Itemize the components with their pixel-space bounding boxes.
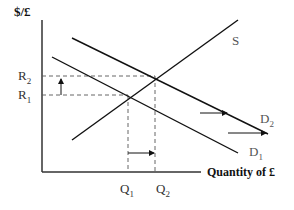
supply-label: S <box>232 33 239 48</box>
r2-label: R2 <box>18 68 31 86</box>
supply-demand-diagram: $/£ Quantity of £ S D2 D1 R2 R1 Q1 Q2 <box>0 0 294 210</box>
guide-lines <box>42 76 155 172</box>
shift-arrows <box>61 79 266 153</box>
demand-1-label: D1 <box>249 144 263 162</box>
r1-label: R1 <box>18 87 31 105</box>
q1-label: Q1 <box>120 181 134 199</box>
x-axis-label: Quantity of £ <box>207 165 275 179</box>
axes <box>42 20 201 172</box>
y-axis-label: $/£ <box>14 4 31 19</box>
demand-2-label: D2 <box>260 111 274 129</box>
q2-label: Q2 <box>156 181 170 199</box>
